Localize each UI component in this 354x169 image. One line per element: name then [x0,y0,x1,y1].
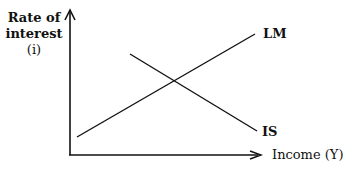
x-axis-label: Income (Y) [272,147,344,162]
lm-label: LM [263,26,287,41]
lm-curve [77,34,255,137]
is-label: IS [262,124,277,139]
islm-diagram [0,0,354,169]
is-curve [130,54,257,131]
